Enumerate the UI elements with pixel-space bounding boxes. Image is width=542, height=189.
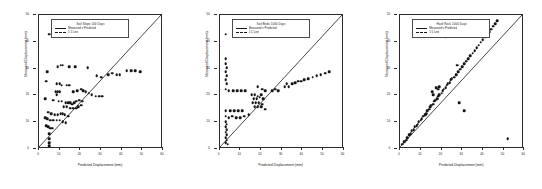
y-tick-mark — [394, 148, 397, 149]
legend-c: Hard Rock 1000 Days Measured v Predicted… — [412, 19, 490, 38]
scatter-point — [416, 123, 419, 126]
scatter-point — [224, 110, 227, 113]
scatter-point — [453, 76, 456, 79]
scatter-point — [60, 100, 63, 103]
y-tick-mark — [394, 14, 397, 15]
x-tick-label: 60 — [522, 152, 525, 156]
scatter-point — [455, 73, 458, 76]
scatter-point — [471, 52, 474, 55]
scatter-point — [459, 68, 462, 71]
x-tick-mark — [141, 147, 142, 150]
legend-entry-label: 1:1 Line — [68, 30, 78, 34]
x-tick-label: 60 — [160, 152, 163, 156]
x-axis-title: Predicted Displacement (mm) — [399, 163, 523, 167]
scatter-point — [130, 69, 133, 72]
scatter-point — [68, 84, 71, 87]
scatter-point — [240, 89, 243, 92]
scatter-point — [435, 87, 438, 90]
x-tick-mark — [461, 147, 462, 150]
scatter-point — [438, 85, 441, 88]
scatter-point — [262, 97, 265, 100]
legend-entry-identity: 1:1 Line — [416, 30, 487, 34]
y-tick-mark — [394, 94, 397, 95]
x-tick-label: 30 — [98, 152, 101, 156]
x-tick-mark — [420, 147, 421, 150]
scatter-point — [46, 71, 49, 74]
x-tick-label: 10 — [418, 152, 421, 156]
scatter-point — [244, 89, 247, 92]
x-tick-mark — [281, 147, 282, 150]
scatter-point — [111, 72, 114, 75]
scatter-point — [224, 63, 227, 66]
scatter-point — [264, 89, 267, 92]
scatter-point — [463, 63, 466, 66]
scatter-point — [324, 72, 327, 75]
x-tick-label: 0 — [37, 152, 39, 156]
panel-a: Soil Slope 100 Days Measured v Predicted… — [0, 0, 181, 189]
scatter-point — [241, 110, 244, 113]
x-tick-mark — [399, 147, 400, 150]
scatter-point — [479, 41, 482, 44]
scatter-point — [303, 79, 306, 82]
y-tick-mark — [33, 94, 36, 95]
x-tick-mark — [482, 147, 483, 150]
scatter-point — [307, 77, 310, 80]
scatter-point — [428, 108, 431, 111]
scatter-point — [229, 110, 232, 113]
x-tick-label: 30 — [279, 152, 282, 156]
scatter-point — [405, 139, 408, 142]
scatter-point — [412, 128, 415, 131]
scatter-point — [231, 115, 234, 118]
scatter-point — [239, 116, 242, 119]
plot-area-a: Soil Slope 100 Days Measured v Predicted… — [38, 14, 162, 148]
scatter-point — [100, 76, 103, 79]
scatter-point — [233, 110, 236, 113]
scatter-point — [68, 65, 71, 68]
scatter-point — [247, 114, 250, 117]
scatter-point — [440, 92, 443, 95]
scatter-point — [48, 144, 51, 147]
scatter-point — [425, 112, 428, 115]
plot-area-c: Hard Rock 1000 Days Measured v Predicted… — [399, 14, 523, 148]
scatter-point — [496, 20, 499, 23]
x-tick-label: 40 — [480, 152, 483, 156]
scatter-point — [463, 110, 466, 113]
scatter-point — [492, 25, 495, 28]
scatter-point — [311, 76, 314, 79]
scatter-point — [237, 110, 240, 113]
x-tick-label: 20 — [439, 152, 442, 156]
scatter-point — [458, 101, 461, 104]
scatter-point — [243, 115, 246, 118]
scatter-point — [60, 84, 63, 87]
scatter-point — [406, 136, 409, 139]
x-tick-mark — [79, 147, 80, 150]
y-axis-title: Measured Displacement (mm) — [385, 0, 389, 121]
legend-a: Soil Slope 100 Days Measured v Predicted… — [51, 19, 129, 38]
scatter-point — [421, 118, 424, 121]
scatter-point — [257, 85, 260, 88]
legend-entry-label: 1:1 Line — [429, 30, 439, 34]
scatter-point — [45, 80, 48, 83]
x-tick-mark — [100, 147, 101, 150]
x-tick-mark — [38, 147, 39, 150]
scatter-point — [475, 47, 478, 50]
y-tick-mark — [33, 148, 36, 149]
scatter-point — [72, 91, 75, 94]
scatter-point — [224, 79, 227, 82]
scatter-point — [283, 85, 286, 88]
scatter-point — [134, 69, 137, 72]
scatter-point — [264, 108, 267, 111]
y-axis-title: Measured Displacement (mm) — [205, 0, 209, 121]
x-axis-ticks-c: 0102030405060 — [399, 150, 523, 160]
legend-swatch-dashed-icon — [416, 32, 427, 33]
x-tick-label: 10 — [57, 152, 60, 156]
scatter-point — [506, 138, 509, 141]
y-tick-label: 0 — [208, 146, 210, 150]
scatter-point — [118, 73, 121, 76]
scatter-point — [401, 143, 404, 146]
y-tick-mark — [33, 14, 36, 15]
scatter-point — [473, 49, 476, 52]
scatter-point — [482, 39, 485, 42]
legend-b: Soil Beds 1000 Days Measured v Predicted… — [232, 19, 310, 38]
y-tick-mark — [394, 68, 397, 69]
